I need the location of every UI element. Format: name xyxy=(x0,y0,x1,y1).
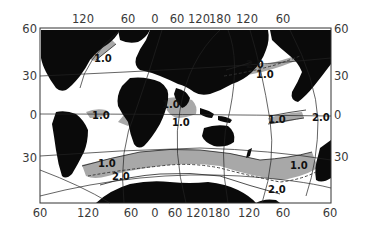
top-tick-1: 60 xyxy=(121,12,136,26)
bottom-tick-5: 120 xyxy=(186,206,208,220)
left-tick-0: 60 xyxy=(22,22,37,36)
contour-label-eq-atlantic-2: 1.0 xyxy=(162,99,180,110)
left-axis-labels: 60 30 0 30 xyxy=(22,22,37,165)
bottom-tick-8: 60 xyxy=(276,206,291,220)
top-tick-2: 0 xyxy=(151,12,158,26)
map-svg: 1.0 2.0 1.0 1.0 1.0 1.0 1.0 2.0 1.0 2.0 … xyxy=(0,0,371,230)
contour-label-indian: 1.0 xyxy=(172,117,190,128)
bottom-tick-7: 120 xyxy=(238,206,260,220)
bottom-tick-1: 120 xyxy=(77,206,99,220)
contour-label-s-atlantic-20: 2.0 xyxy=(112,171,130,182)
right-tick-1: 30 xyxy=(334,69,349,83)
top-tick-4: 120 xyxy=(188,12,210,26)
bottom-tick-3: 0 xyxy=(151,206,158,220)
contour-label-eq-atlantic: 1.0 xyxy=(92,110,110,121)
bottom-tick-4: 60 xyxy=(168,206,183,220)
contour-label-n-pacific-10: 1.0 xyxy=(256,69,274,80)
contour-label-e-pacific-20: 2.0 xyxy=(312,112,330,123)
right-axis-labels: 60 30 0 30 xyxy=(334,22,349,164)
contour-label-s-pacific-20: 2.0 xyxy=(268,184,286,195)
contour-label-e-pacific-10: 1.0 xyxy=(268,114,286,125)
bottom-tick-0: 60 xyxy=(33,206,48,220)
contour-label-n-atlantic: 1.0 xyxy=(94,53,112,64)
left-tick-3: 30 xyxy=(22,151,37,165)
top-axis-labels: 120 60 0 60 120 180 120 60 xyxy=(72,12,290,26)
right-tick-3: 30 xyxy=(334,150,349,164)
top-tick-5: 180 xyxy=(209,12,231,26)
bottom-tick-2: 60 xyxy=(124,206,139,220)
left-tick-1: 30 xyxy=(22,69,37,83)
contour-label-s-atlantic-10: 1.0 xyxy=(98,158,116,169)
right-tick-2: 0 xyxy=(334,108,341,122)
right-tick-0: 60 xyxy=(334,22,349,36)
bottom-tick-6: 180 xyxy=(208,206,230,220)
bottom-axis-labels: 60 120 60 0 60 120 180 120 60 60 xyxy=(33,206,338,220)
top-tick-6: 120 xyxy=(236,12,258,26)
top-tick-0: 120 xyxy=(72,12,94,26)
left-tick-2: 0 xyxy=(30,108,37,122)
top-tick-7: 60 xyxy=(276,12,291,26)
world-map-figure: 1.0 2.0 1.0 1.0 1.0 1.0 1.0 2.0 1.0 2.0 … xyxy=(0,0,371,230)
contour-label-s-pacific-10: 1.0 xyxy=(290,160,308,171)
bottom-tick-9: 60 xyxy=(323,206,338,220)
top-tick-3: 60 xyxy=(170,12,185,26)
